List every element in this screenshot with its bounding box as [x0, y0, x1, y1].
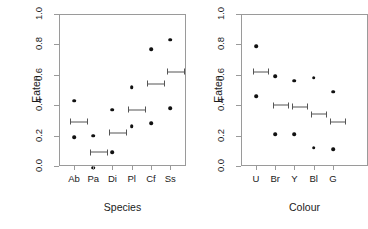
data-point: [91, 134, 95, 138]
panel-species: Eaten Species 0.00.20.40.60.81.0AbPaDiPl…: [0, 0, 195, 229]
x-axis-tick: [151, 166, 152, 170]
prediction-interval-marker: [273, 105, 289, 106]
y-axis-tick-label: 1.0: [215, 1, 226, 27]
x-axis-tick: [112, 166, 113, 170]
x-axis-tick: [333, 166, 334, 170]
y-axis-tick-label: 0.2: [215, 122, 226, 148]
data-point: [254, 94, 258, 98]
y-axis-tick-label: 0.6: [215, 61, 226, 87]
prediction-interval-marker: [167, 71, 185, 72]
y-axis-tick: [54, 14, 59, 15]
x-axis-title-colour: Colour: [241, 201, 368, 213]
y-axis-tick-label: 0.8: [215, 31, 226, 57]
data-point: [168, 38, 172, 42]
x-axis-tick: [314, 166, 315, 170]
panel-colour: Eaten Colour 0.00.20.40.60.81.0UBrYBlG: [183, 0, 367, 229]
x-axis-title-species: Species: [59, 201, 186, 213]
y-axis-tick-label: 0.4: [215, 92, 226, 118]
x-axis-tick-label: Br: [271, 173, 281, 184]
y-axis-tick-label: 0.8: [33, 31, 44, 57]
data-point: [149, 47, 153, 51]
y-axis-tick: [236, 44, 241, 45]
y-axis-tick: [236, 136, 241, 137]
data-point: [168, 106, 172, 110]
data-point: [254, 44, 258, 48]
data-point: [273, 75, 277, 79]
data-point: [331, 90, 335, 94]
y-axis-tick: [54, 44, 59, 45]
x-axis-tick: [93, 166, 94, 170]
y-axis-tick: [236, 75, 241, 76]
x-axis-tick-label: G: [329, 173, 336, 184]
prediction-interval-marker: [292, 106, 308, 107]
data-point: [293, 132, 297, 136]
x-axis-tick: [170, 166, 171, 170]
y-axis-tick: [236, 14, 241, 15]
x-axis-tick: [74, 166, 75, 170]
prediction-interval-marker: [90, 152, 108, 153]
x-axis-tick-label: Y: [291, 173, 297, 184]
data-point: [273, 132, 277, 136]
data-point: [72, 99, 76, 103]
data-point: [312, 76, 316, 80]
x-axis-tick: [132, 166, 133, 170]
x-axis-tick-label: Ab: [68, 173, 80, 184]
y-axis-tick: [236, 105, 241, 106]
x-axis-tick-label: Cf: [146, 173, 156, 184]
y-axis-tick: [54, 75, 59, 76]
y-axis-tick-label: 0.4: [33, 92, 44, 118]
plot-area-colour: [241, 14, 368, 166]
x-axis-tick-label: U: [253, 173, 260, 184]
data-point: [72, 135, 76, 139]
data-point: [331, 147, 335, 151]
x-axis-tick: [294, 166, 295, 170]
plot-area-species: [59, 14, 186, 166]
x-axis-tick-label: Bl: [310, 173, 318, 184]
x-axis-tick-label: Pl: [128, 173, 136, 184]
data-point: [312, 146, 316, 150]
data-point: [111, 151, 115, 155]
x-axis-tick-label: Ss: [165, 173, 176, 184]
x-axis-tick: [275, 166, 276, 170]
y-axis-tick-label: 1.0: [33, 1, 44, 27]
y-axis-tick-label: 0.0: [215, 153, 226, 179]
y-axis-tick: [236, 166, 241, 167]
y-axis-tick: [54, 136, 59, 137]
data-point: [130, 125, 134, 129]
y-axis-tick-label: 0.2: [33, 122, 44, 148]
prediction-interval-marker: [147, 83, 165, 84]
x-axis-tick-label: Pa: [87, 173, 99, 184]
x-axis-tick-label: Di: [108, 173, 117, 184]
prediction-interval-marker: [253, 71, 269, 72]
y-axis-tick-label: 0.0: [33, 153, 44, 179]
data-point: [149, 122, 153, 126]
y-axis-tick: [54, 105, 59, 106]
y-axis-tick: [54, 166, 59, 167]
prediction-interval-marker: [128, 109, 146, 110]
x-axis-tick: [256, 166, 257, 170]
data-point: [130, 85, 134, 89]
y-axis-tick-label: 0.6: [33, 61, 44, 87]
data-point: [293, 79, 297, 83]
data-point: [111, 108, 115, 112]
prediction-interval-marker: [70, 121, 88, 122]
prediction-interval-marker: [311, 114, 327, 115]
prediction-interval-marker: [109, 132, 127, 133]
prediction-interval-marker: [330, 121, 346, 122]
